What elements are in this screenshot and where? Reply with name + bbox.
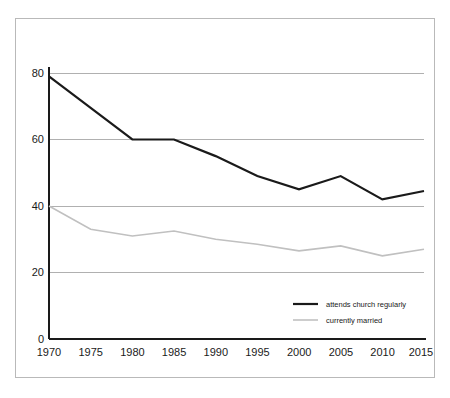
series-line-attends-church-regularly (49, 76, 424, 199)
x-tick-label-1990: 1990 (204, 346, 228, 358)
chart-figure-frame: 0 20 40 60 80 1970 1975 1980 1985 1990 1… (15, 18, 435, 378)
y-tick-label-80: 80 (32, 67, 44, 79)
y-tick-label-20: 20 (32, 266, 44, 278)
line-chart-canvas: 0 20 40 60 80 1970 1975 1980 1985 1990 1… (16, 19, 434, 377)
x-tick-label-1985: 1985 (162, 346, 186, 358)
chart-legend: attends church regularly currently marri… (293, 300, 406, 325)
x-tick-labels: 1970 1975 1980 1985 1990 1995 2000 2005 … (37, 346, 433, 358)
x-tick-label-1980: 1980 (120, 346, 144, 358)
x-tick-label-2005: 2005 (329, 346, 353, 358)
x-tick-label-2010: 2010 (370, 346, 394, 358)
y-tick-labels: 0 20 40 60 80 (32, 67, 44, 345)
legend-label-currently-married: currently married (326, 316, 382, 325)
y-tick-label-0: 0 (38, 333, 44, 345)
series-line-currently-married (49, 206, 424, 256)
y-tick-label-60: 60 (32, 133, 44, 145)
x-tick-label-1970: 1970 (37, 346, 61, 358)
legend-label-attends-church-regularly: attends church regularly (326, 300, 406, 309)
x-tick-label-2000: 2000 (287, 346, 311, 358)
x-tick-label-1995: 1995 (245, 346, 269, 358)
x-tick-label-2015: 2015 (409, 346, 433, 358)
y-tick-label-40: 40 (32, 200, 44, 212)
x-tick-label-1975: 1975 (78, 346, 102, 358)
